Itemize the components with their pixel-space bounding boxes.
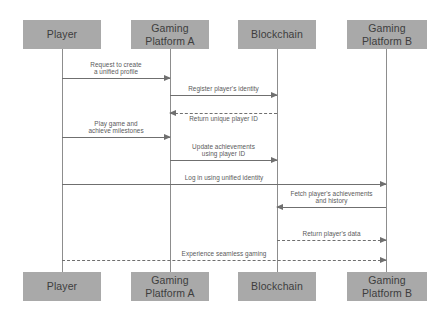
message-line <box>277 207 386 208</box>
header-participant-platform_b[interactable]: Gaming Platform B <box>347 20 427 49</box>
participant-label: Blockchain <box>251 280 303 293</box>
message-line <box>62 78 170 79</box>
header-participant-player[interactable]: Player <box>23 20 101 49</box>
participant-label: Gaming Platform A <box>145 274 194 299</box>
footer-participant-platform_b[interactable]: Gaming Platform B <box>347 272 427 301</box>
footer-participant-blockchain[interactable]: Blockchain <box>238 272 316 301</box>
participant-label: Player <box>47 280 77 293</box>
participant-label: Blockchain <box>251 28 303 41</box>
message-label: Experience seamless gaming <box>62 250 386 258</box>
header-participant-platform_a[interactable]: Gaming Platform A <box>131 20 209 49</box>
message-label: Update achievements using player ID <box>170 143 277 158</box>
header-participant-blockchain[interactable]: Blockchain <box>238 20 316 49</box>
message-line <box>170 95 277 96</box>
participant-label: Player <box>47 28 77 41</box>
message-line <box>170 160 277 161</box>
participant-label: Gaming Platform A <box>145 22 194 47</box>
message-label: Log in using unified identity <box>62 174 386 182</box>
message-label: Play game and achieve milestones <box>62 120 170 135</box>
message-line <box>170 113 277 114</box>
message-line <box>277 240 386 241</box>
message-line <box>62 260 386 261</box>
message-label: Request to create a unified profile <box>62 61 170 76</box>
message-label: Return unique player ID <box>170 115 277 123</box>
message-line <box>62 184 386 185</box>
participant-label: Gaming Platform B <box>362 22 412 47</box>
message-label: Return player's data <box>277 230 386 238</box>
participant-label: Gaming Platform B <box>362 274 412 299</box>
message-label: Register player's identity <box>170 85 277 93</box>
message-line <box>62 137 170 138</box>
message-label: Fetch player's achievements and history <box>277 190 386 205</box>
lifeline-player <box>62 49 63 272</box>
sequence-diagram-canvas: PlayerGaming Platform ABlockchainGaming … <box>0 0 447 321</box>
footer-participant-platform_a[interactable]: Gaming Platform A <box>131 272 209 301</box>
footer-participant-player[interactable]: Player <box>23 272 101 301</box>
